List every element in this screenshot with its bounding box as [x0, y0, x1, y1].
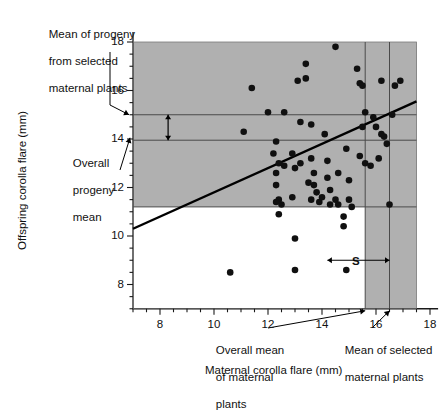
data-point: [359, 124, 366, 131]
data-point: [327, 187, 334, 194]
y-tick-label: 8: [100, 278, 124, 290]
interval-arrow-S-head: [327, 257, 332, 263]
data-point: [335, 170, 342, 177]
data-point: [346, 177, 353, 184]
data-point: [348, 204, 355, 211]
y-tick-label: 18: [100, 35, 124, 47]
data-point: [384, 141, 391, 148]
x-tick-label: 12: [256, 318, 280, 330]
data-point: [362, 109, 369, 116]
data-point: [340, 213, 347, 220]
data-point: [335, 201, 342, 208]
data-point: [332, 44, 339, 51]
data-point: [294, 78, 301, 85]
data-point: [367, 162, 374, 169]
data-point: [273, 170, 280, 177]
data-point: [311, 170, 318, 177]
data-point: [281, 162, 288, 169]
data-point: [386, 201, 393, 208]
data-point: [289, 150, 296, 157]
x-tick-label: 8: [148, 318, 172, 330]
data-point: [303, 75, 310, 82]
data-point: [270, 150, 277, 157]
data-point: [343, 267, 350, 274]
y-tick-label: 16: [100, 84, 124, 96]
data-point: [311, 182, 318, 189]
data-point: [265, 109, 272, 116]
data-point: [327, 201, 334, 208]
x-tick-label: 10: [202, 318, 226, 330]
data-point: [227, 269, 234, 276]
x-tick-label: 18: [418, 318, 442, 330]
data-point: [303, 61, 310, 68]
data-point: [313, 189, 320, 196]
data-point: [278, 201, 285, 208]
data-point: [276, 211, 283, 218]
data-point: [249, 85, 256, 92]
data-point: [273, 138, 280, 145]
data-point: [389, 111, 396, 118]
data-point: [281, 109, 288, 116]
data-point: [370, 114, 377, 121]
data-point: [397, 78, 404, 85]
data-point: [392, 82, 399, 89]
data-point: [346, 196, 353, 203]
data-point: [273, 182, 280, 189]
data-point: [319, 194, 326, 201]
data-point: [359, 82, 366, 89]
x-tick-label: 14: [310, 318, 334, 330]
data-point: [321, 131, 328, 138]
data-point: [289, 194, 296, 201]
data-point: [324, 158, 331, 165]
x-tick-label: 16: [364, 318, 388, 330]
data-point: [357, 153, 364, 160]
data-point: [308, 155, 315, 162]
data-point: [292, 235, 299, 242]
data-point: [308, 121, 315, 128]
y-tick-label: 12: [100, 181, 124, 193]
data-point: [240, 128, 247, 135]
data-point: [340, 223, 347, 230]
data-point: [292, 165, 299, 172]
data-point: [324, 175, 331, 182]
data-point: [375, 155, 382, 162]
data-point: [378, 78, 385, 85]
data-point: [373, 124, 380, 131]
data-point: [308, 196, 315, 203]
y-tick-label: 10: [100, 229, 124, 241]
data-point: [381, 133, 388, 140]
data-point: [297, 160, 304, 167]
data-point: [343, 145, 350, 152]
shade-selected-maternal-shade: [365, 42, 416, 309]
data-point: [354, 65, 361, 72]
annotation-overall-maternal-line3: plants: [216, 398, 247, 410]
data-point: [297, 119, 304, 126]
data-point: [292, 267, 299, 274]
y-tick-label: 14: [100, 132, 124, 144]
